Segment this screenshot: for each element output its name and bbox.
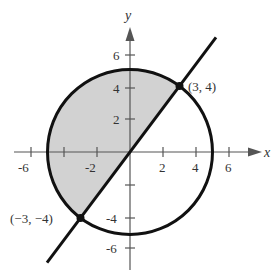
y-tick-label: 4 [113, 81, 120, 96]
y-tick-label: 2 [113, 112, 120, 127]
point-label-3-4: (3, 4) [188, 79, 216, 94]
x-tick-label: -2 [85, 160, 96, 175]
x-tick-label: -6 [18, 160, 29, 175]
x-tick-label: 4 [192, 160, 199, 175]
y-tick-label: -6 [106, 241, 117, 256]
y-axis-arrow-icon [126, 27, 135, 41]
x-tick-label: 2 [159, 160, 166, 175]
point-label-neg3-neg4: (−3, −4) [10, 211, 53, 226]
y-axis-label: y [123, 8, 132, 23]
x-tick-label: 6 [225, 160, 232, 175]
y-tick-label: -4 [106, 211, 117, 226]
graph: x y -6 -2 2 4 6 6 4 2 -4 -6 (3, 4) (−3, … [0, 0, 279, 277]
x-axis-arrow-icon [248, 148, 262, 157]
x-axis-label: x [263, 145, 271, 160]
point-3-4 [176, 82, 184, 90]
y-tick-label: 6 [113, 48, 120, 63]
point-neg3-neg4 [77, 214, 85, 222]
